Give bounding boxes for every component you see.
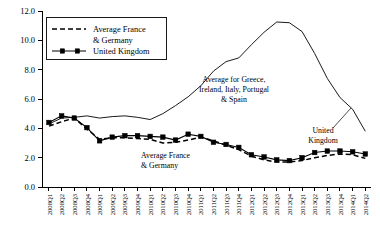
x-tick-label: 2009Q1 [96, 194, 103, 215]
annot-giips-line3: & Spain [221, 95, 247, 104]
x-tick-label: 2012Q2 [261, 194, 268, 215]
y-tick-label: 4.0 [24, 123, 35, 133]
x-tick-label: 2013Q3 [324, 193, 331, 215]
annot-fg-line1: Average France [141, 151, 191, 160]
annot-france-germany: Average France & Germany [141, 151, 191, 170]
legend-label-united-kingdom: United Kingdom [93, 47, 150, 56]
x-tick-label: 2009Q2 [109, 194, 116, 215]
x-tick-label: 2012Q3 [273, 193, 280, 215]
x-tick-label: 2010Q4 [185, 193, 192, 215]
y-tick-label: 12.0 [20, 6, 35, 16]
annot-giips-line1: Average for Greece, [203, 75, 266, 84]
annot-giips-line2: Ireland, Italy, Portugal [199, 85, 270, 94]
x-tick-group: 2008Q12008Q22008Q32008Q42009Q12009Q22009… [46, 187, 369, 215]
x-tick-label: 2011Q3 [223, 193, 230, 215]
data-point-marker [312, 150, 317, 155]
data-point-marker [300, 155, 305, 160]
data-point-marker [363, 152, 368, 157]
y-tick-label: 6.0 [24, 94, 35, 104]
x-tick-label: 2010Q3 [172, 193, 179, 215]
x-tick-label: 2013Q4 [337, 193, 344, 215]
x-tick-label: 2008Q2 [58, 194, 65, 215]
x-tick-label: 2011Q1 [197, 194, 204, 215]
y-axis: 0.02.04.06.08.010.012.0 [20, 6, 42, 192]
data-point-marker [148, 134, 153, 139]
x-tick-label: 2011Q2 [210, 194, 217, 215]
data-point-marker [161, 135, 166, 140]
x-tick-label: 2012Q4 [286, 193, 293, 215]
y-tick-label: 10.0 [20, 35, 35, 45]
x-tick-label: 2014Q1 [349, 194, 356, 215]
x-tick-label: 2009Q3 [121, 193, 128, 215]
x-tick-label: 2013Q1 [299, 194, 306, 215]
annot-uk-line2: Kingdom [308, 136, 337, 145]
x-tick-label: 2009Q4 [134, 193, 141, 215]
annot-fg-line2: & Germany [141, 161, 178, 170]
annot-uk: United Kingdom [308, 108, 351, 145]
y-tick-group: 0.02.04.06.08.010.012.0 [20, 6, 42, 192]
line-chart: 0.02.04.06.08.010.012.0 2008Q12008Q22008… [0, 0, 380, 234]
annot-uk-line1: United [312, 126, 333, 135]
data-point-marker [59, 114, 64, 119]
legend-marker-uk-2 [75, 49, 79, 53]
y-tick-label: 0.0 [24, 182, 35, 192]
annot-uk-leader [333, 108, 351, 128]
data-point-marker [325, 149, 330, 154]
legend: Average France & Germany United Kingdom [46, 17, 166, 59]
data-point-marker [47, 120, 52, 125]
x-axis: 2008Q12008Q22008Q32008Q42009Q12009Q22009… [42, 187, 371, 215]
legend-label-france-germany-line2: & Germany [93, 36, 134, 45]
x-tick-label: 2008Q1 [46, 194, 53, 215]
legend-marker-uk-1 [60, 49, 64, 53]
x-tick-label: 2012Q1 [248, 194, 255, 215]
y-tick-label: 8.0 [24, 65, 35, 75]
x-tick-label: 2011Q4 [235, 193, 242, 215]
x-tick-label: 2010Q1 [147, 194, 154, 215]
x-tick-label: 2014Q2 [362, 194, 369, 215]
annot-giips: Average for Greece, Ireland, Italy, Port… [199, 75, 270, 104]
x-tick-label: 2008Q3 [71, 193, 78, 215]
x-tick-label: 2010Q2 [159, 194, 166, 215]
legend-label-france-germany-line1: Average France [93, 25, 146, 34]
chart-container: 0.02.04.06.08.010.012.0 2008Q12008Q22008… [0, 0, 380, 234]
data-point-marker [350, 150, 355, 155]
x-tick-label: 2008Q4 [84, 193, 91, 215]
data-point-marker [186, 132, 191, 137]
data-point-marker [135, 133, 140, 138]
data-point-marker [262, 155, 267, 160]
y-tick-label: 2.0 [24, 153, 35, 163]
x-tick-label: 2013Q2 [311, 194, 318, 215]
data-point-marker [338, 149, 343, 154]
